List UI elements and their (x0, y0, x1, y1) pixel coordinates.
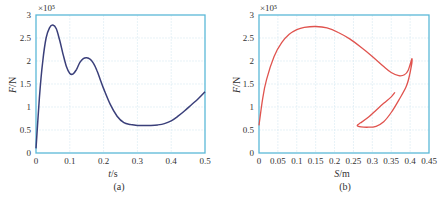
x-tick-label: 0.2 (329, 156, 340, 166)
x-tick-label: 0.1 (291, 156, 302, 166)
x-tick-label: 0.5 (199, 156, 211, 166)
x-tick-label: 0.15 (308, 156, 324, 166)
y-multiplier-a: ×10⁵ (38, 3, 55, 13)
panel-a: 00.10.20.30.40.500.511.522.53 ×10⁵ F/N t… (7, 3, 211, 193)
y-tick-label: 2 (250, 56, 255, 66)
x-tick-label: 0.05 (270, 156, 286, 166)
ticks-a: 00.10.20.30.40.500.511.522.53 (20, 10, 211, 166)
y-tick-label: 0 (27, 148, 32, 158)
y-tick-label: 1.5 (243, 79, 255, 89)
y-tick-label: 0.5 (20, 125, 32, 135)
series-line-b (259, 26, 412, 127)
y-tick-label: 1 (27, 102, 32, 112)
caption-b: (b) (339, 181, 351, 193)
y-axis-label-b: F/N (231, 77, 242, 94)
panel-b: 00.050.10.150.20.250.30.350.40.4500.511.… (231, 3, 437, 193)
x-tick-label: 0.25 (346, 156, 362, 166)
x-tick-label: 0.45 (421, 156, 437, 166)
y-tick-label: 1 (250, 102, 255, 112)
x-tick-label: 0.35 (383, 156, 399, 166)
y-multiplier-b: ×10⁵ (260, 3, 277, 13)
x-tick-label: 0.3 (367, 156, 379, 166)
x-axis-label-a: t/s (108, 168, 118, 179)
x-tick-label: 0.4 (166, 156, 178, 166)
y-tick-label: 3 (27, 10, 32, 20)
y-tick-label: 2.5 (20, 33, 32, 43)
y-tick-label: 1.5 (20, 79, 32, 89)
x-tick-label: 0.2 (98, 156, 109, 166)
x-tick-label: 0.3 (132, 156, 144, 166)
chart-figure: 00.10.20.30.40.500.511.522.53 ×10⁵ F/N t… (0, 0, 442, 198)
y-tick-label: 2 (27, 56, 32, 66)
x-tick-label: 0.1 (64, 156, 75, 166)
y-tick-label: 3 (250, 10, 255, 20)
y-tick-label: 0 (250, 148, 255, 158)
y-tick-label: 2.5 (243, 33, 255, 43)
x-tick-label: 0.4 (404, 156, 416, 166)
y-tick-label: 0.5 (243, 125, 255, 135)
x-axis-label-b: S/m (334, 168, 350, 179)
caption-a: (a) (113, 181, 124, 193)
x-tick-label: 0 (34, 156, 39, 166)
y-axis-label-a: F/N (7, 77, 18, 94)
grid-a (36, 15, 205, 153)
x-tick-label: 0 (257, 156, 262, 166)
